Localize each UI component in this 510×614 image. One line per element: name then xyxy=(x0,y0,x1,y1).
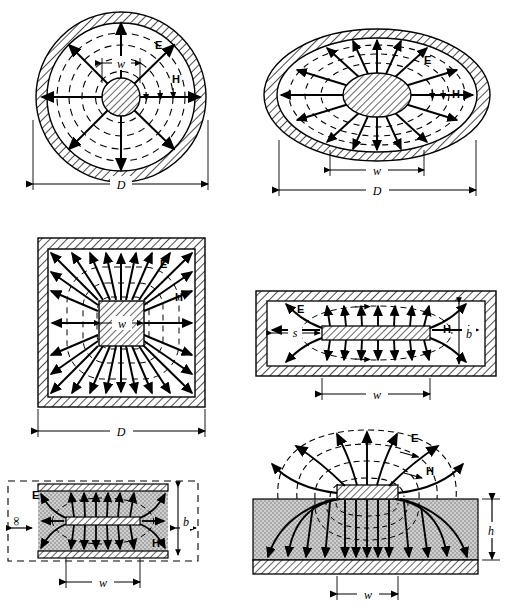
dim-h-microstrip: h xyxy=(482,499,500,560)
label-D: D xyxy=(116,178,126,192)
label-h-field-elliptical: H xyxy=(452,88,460,100)
ground-plane-bottom xyxy=(38,551,168,558)
label-D-elliptical: D xyxy=(372,184,382,198)
infinity-left-group: ∞ xyxy=(8,516,32,528)
label-h-field-infinite: H xyxy=(152,537,160,549)
label-h-field-square: H xyxy=(175,291,183,303)
center-strip-infinite xyxy=(66,517,140,525)
substrate xyxy=(253,499,478,560)
label-b-infinite: b xyxy=(183,515,189,529)
dim-b-infinite: b xyxy=(178,487,193,555)
label-e-field-microstrip: E xyxy=(411,432,418,444)
label-h-field-microstrip: H xyxy=(426,465,434,477)
label-h: h xyxy=(488,524,494,538)
panel-coaxial-square: w E H D xyxy=(38,238,205,439)
strip-conductor xyxy=(337,485,398,499)
label-h-field-stripline: H xyxy=(443,323,451,335)
dim-D-square: D xyxy=(38,409,205,439)
panel-stripline-infinite: E H ∞ ∞ b w xyxy=(8,481,198,590)
ground-plane-top xyxy=(38,484,168,491)
label-w: w xyxy=(117,57,125,71)
label-e-field-elliptical: E xyxy=(424,54,431,66)
inner-conductor xyxy=(102,78,140,116)
panel-shielded-stripline: E H s b w xyxy=(256,291,496,402)
label-infinity-left: ∞ xyxy=(8,516,23,525)
label-e-field: E xyxy=(155,39,162,51)
transmission-line-cross-sections-figure: w E H D xyxy=(0,0,510,614)
label-e-field-infinite: E xyxy=(32,489,39,501)
label-w-stripline: w xyxy=(373,388,381,402)
dim-w-infinite: w xyxy=(66,558,140,590)
label-w-microstrip: w xyxy=(364,588,372,602)
label-w-infinite: w xyxy=(99,576,107,590)
label-D-square: D xyxy=(116,425,126,439)
label-w-square: w xyxy=(118,317,126,331)
label-s: s xyxy=(293,326,298,340)
label-h-field: H xyxy=(172,73,180,85)
panel-microstrip: E H h w xyxy=(253,430,500,602)
dim-w-stripline: w xyxy=(322,378,430,402)
label-w-elliptical: w xyxy=(373,164,381,178)
label-b: b xyxy=(466,327,472,341)
label-e-field-stripline: E xyxy=(297,303,304,315)
center-strip xyxy=(322,326,430,340)
inner-conductor-elliptical xyxy=(343,73,411,117)
dim-w-microstrip: w xyxy=(337,576,398,602)
panel-coaxial-elliptical: E H w D xyxy=(264,29,490,198)
ground-plane-microstrip xyxy=(253,560,478,574)
label-e-field-square: E xyxy=(160,258,167,270)
panel-coaxial-circular: w E H D xyxy=(33,12,208,192)
